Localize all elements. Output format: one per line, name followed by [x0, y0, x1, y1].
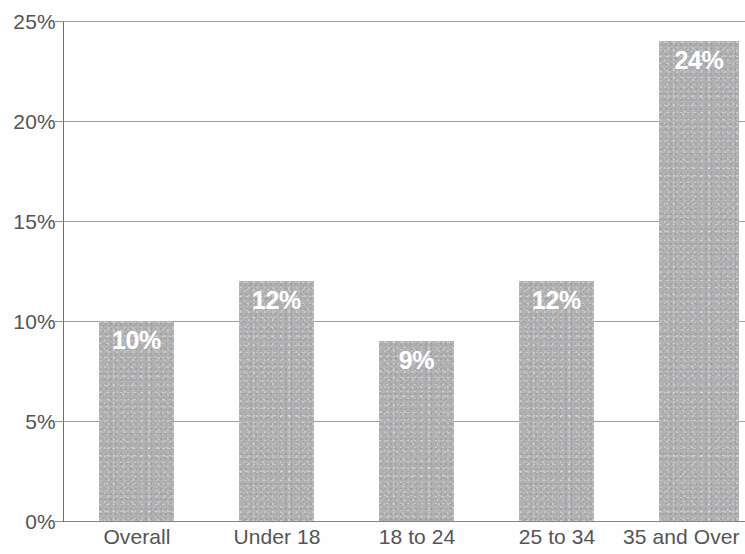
- bar-18-to-24: 9%: [379, 341, 454, 521]
- bar-chart-figure: 0% 5% 10% 15% 20% 25% 10% 12% 9%: [0, 0, 745, 554]
- axis-tick-0: [55, 521, 63, 522]
- bar-value-18-to-24: 9%: [379, 348, 454, 373]
- x-tick-label-25-to-34: 25 to 34: [489, 524, 625, 550]
- axis-tick-5: [55, 421, 63, 422]
- gridline-25: [63, 21, 745, 22]
- bar-value-25-to-34: 12%: [519, 288, 594, 313]
- bar-under-18: 12%: [239, 281, 314, 521]
- x-tick-label-35-and-over: 35 and Over: [623, 524, 745, 550]
- axis-tick-15: [55, 221, 63, 222]
- gridline-0-baseline: [63, 521, 745, 522]
- x-tick-label-18-to-24: 18 to 24: [349, 524, 485, 550]
- axis-tick-10: [55, 321, 63, 322]
- axis-tick-20: [55, 121, 63, 122]
- bar-35-and-over: 24%: [659, 41, 739, 521]
- x-tick-label-overall: Overall: [69, 524, 205, 550]
- bar-value-under-18: 12%: [239, 288, 314, 313]
- bar-25-to-34: 12%: [519, 281, 594, 521]
- gridline-20: [63, 121, 745, 122]
- bar-value-overall: 10%: [99, 328, 174, 353]
- gridline-15: [63, 221, 745, 222]
- x-axis-tick-labels: Overall Under 18 18 to 24 25 to 34 35 an…: [63, 524, 745, 554]
- plot-area: 10% 12% 9% 12% 24%: [63, 21, 745, 521]
- bar-overall: 10%: [99, 321, 174, 521]
- x-tick-label-under-18: Under 18: [209, 524, 345, 550]
- bar-value-35-and-over: 24%: [659, 48, 739, 73]
- axis-tick-25: [55, 21, 63, 22]
